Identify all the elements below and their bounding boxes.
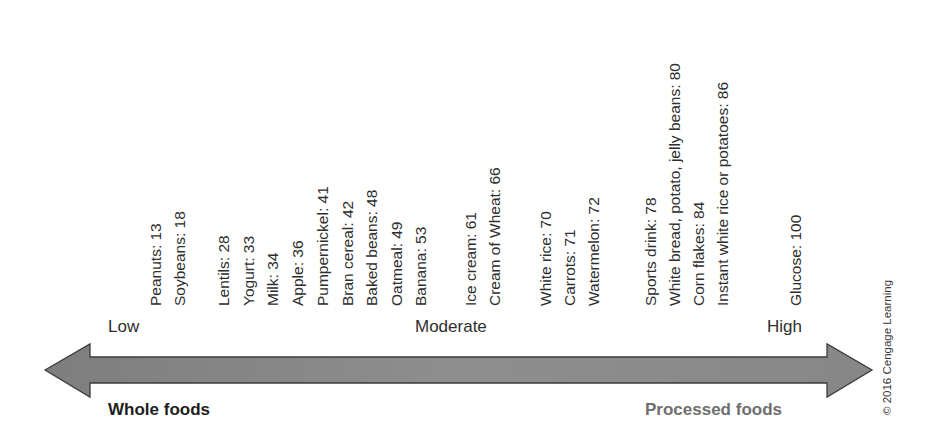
- food-label: Pumpernickel: 41: [314, 186, 332, 306]
- food-label: White rice: 70: [537, 211, 555, 306]
- food-label: Glucose: 100: [787, 215, 805, 306]
- copyright-notice: © 2016 Cengage Learning: [880, 280, 894, 415]
- scale-moderate-label: Moderate: [415, 317, 487, 337]
- food-label: Peanuts: 13: [147, 223, 165, 306]
- food-label: Watermelon: 72: [585, 197, 603, 306]
- food-label: Banana: 53: [412, 227, 430, 306]
- food-label: Corn flakes: 84: [690, 202, 708, 306]
- food-label: Soybeans: 18: [171, 211, 189, 306]
- scale-high-label: High: [767, 317, 802, 337]
- food-label: Ice cream: 61: [462, 212, 480, 306]
- food-label: Yogurt: 33: [240, 236, 258, 306]
- scale-low-label: Low: [108, 317, 139, 337]
- arrow-shape: [45, 344, 872, 397]
- whole-foods-label: Whole foods: [108, 400, 210, 420]
- food-label: Apple: 36: [289, 241, 307, 307]
- food-label: Oatmeal: 49: [388, 222, 406, 306]
- food-label: Lentils: 28: [215, 235, 233, 306]
- food-label: Cream of Wheat: 66: [486, 167, 504, 306]
- food-label: Carrots: 71: [561, 229, 579, 306]
- food-label: White bread, potato, jelly beans: 80: [666, 63, 684, 306]
- food-label: Bran cereal: 42: [339, 201, 357, 306]
- processed-foods-label: Processed foods: [645, 400, 782, 420]
- food-label: Baked beans: 48: [363, 190, 381, 306]
- food-label: Sports drink: 78: [642, 197, 660, 306]
- food-label: Instant white rice or potatoes: 86: [714, 82, 732, 306]
- food-label: Milk: 34: [264, 253, 282, 306]
